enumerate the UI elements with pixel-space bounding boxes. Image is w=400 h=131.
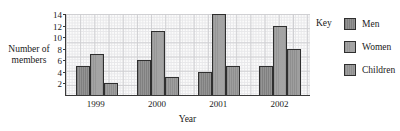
y-axis-tick-label: 4	[58, 68, 63, 77]
legend-label-women: Women	[362, 42, 391, 52]
bar-women-1999	[90, 54, 104, 94]
legend-swatch-men	[344, 18, 356, 30]
x-axis-tick-label: 2000	[126, 99, 187, 109]
legend-items: MenWomenChildren	[344, 12, 395, 81]
bar-men-2002	[259, 66, 273, 95]
x-axis-tick-labels: 1999200020012002	[65, 99, 310, 109]
legend-title: Key	[316, 18, 332, 28]
y-axis-tick-mark	[63, 26, 67, 27]
bar-chart-figure: Number of members 2468101214 19992000200…	[0, 0, 400, 131]
plot-area	[65, 14, 310, 96]
bar-women-2001	[212, 14, 226, 95]
legend-label-children: Children	[362, 65, 395, 75]
legend-item-women: Women	[344, 35, 395, 58]
bar-children-1999	[104, 83, 118, 95]
y-axis-tick-labels: 2468101214	[42, 11, 62, 96]
legend: Key MenWomenChildren	[316, 12, 400, 82]
bar-men-1999	[76, 66, 90, 95]
bar-men-2000	[137, 60, 151, 95]
y-axis-tick-mark	[63, 83, 67, 84]
y-axis-tick-mark	[63, 14, 67, 15]
y-axis-tick-label: 14	[53, 11, 62, 20]
x-axis-line	[66, 95, 310, 96]
bar-women-2002	[273, 26, 287, 95]
y-axis-tick-mark	[63, 60, 67, 61]
y-axis-tick-label: 12	[53, 22, 62, 31]
x-axis-tick-label: 2001	[188, 99, 249, 109]
y-axis-tick-label: 2	[58, 80, 63, 89]
x-axis-tick-label: 1999	[65, 99, 126, 109]
bar-women-2000	[151, 31, 165, 94]
bar-children-2002	[287, 49, 301, 95]
y-axis-tick-mark	[63, 72, 67, 73]
bar-men-2001	[198, 72, 212, 95]
y-axis-tick-label: 10	[53, 34, 62, 43]
bar-groups	[66, 14, 310, 95]
x-axis-label: Year	[65, 114, 310, 124]
bar-group	[127, 14, 188, 95]
legend-item-men: Men	[344, 12, 395, 35]
y-axis-tick-mark	[63, 37, 67, 38]
x-axis-tick-label: 2002	[249, 99, 310, 109]
legend-swatch-women	[344, 41, 356, 53]
y-axis-tick-mark	[63, 49, 67, 50]
bar-children-2001	[226, 66, 240, 95]
y-axis-tick-label: 6	[58, 57, 63, 66]
legend-item-children: Children	[344, 58, 395, 81]
bar-children-2000	[165, 77, 179, 94]
bar-group	[249, 14, 310, 95]
bar-group	[188, 14, 249, 95]
legend-swatch-children	[344, 64, 356, 76]
bar-group	[66, 14, 127, 95]
y-axis-tick-label: 8	[58, 45, 63, 54]
legend-label-men: Men	[362, 19, 379, 29]
